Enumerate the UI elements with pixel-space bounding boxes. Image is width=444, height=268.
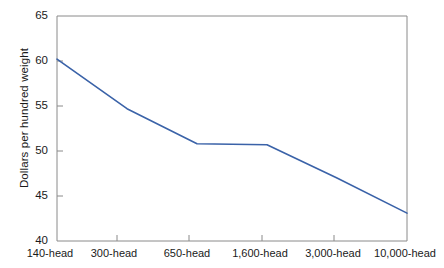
plot-background (57, 16, 407, 241)
plot-area (0, 0, 444, 268)
chart-container: Dollars per hundred weight 65 60 55 50 4… (0, 0, 444, 268)
